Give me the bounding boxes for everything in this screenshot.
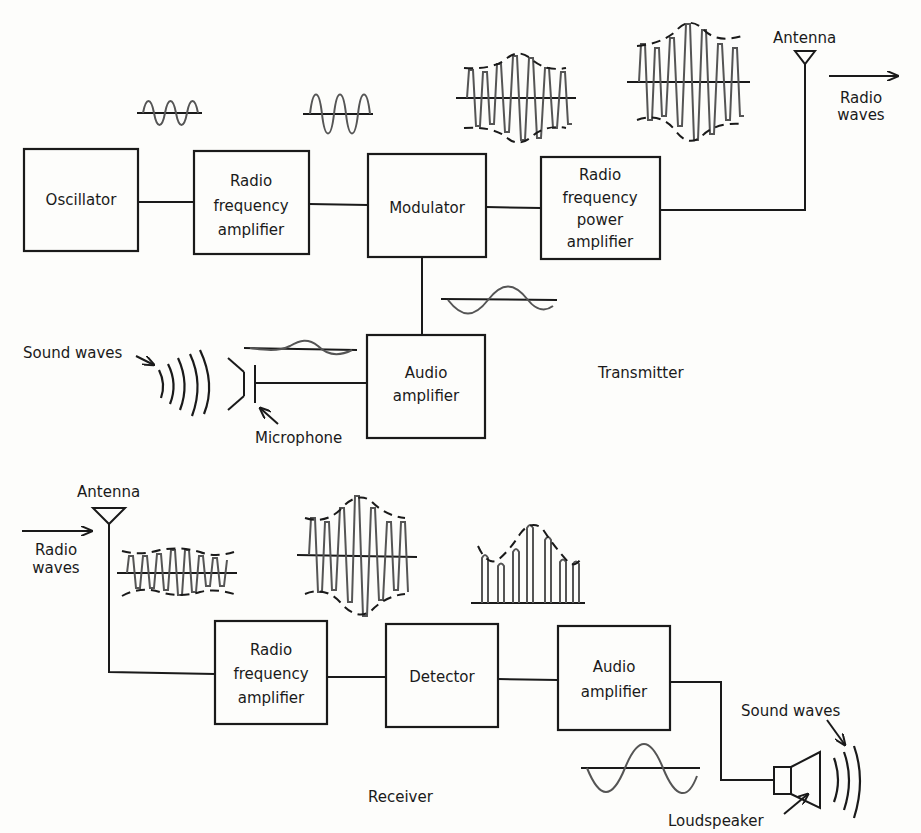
rx-sound-waves-arrow-icon — [827, 720, 845, 745]
rx-antenna-label: Antenna — [77, 483, 140, 501]
rx-rf-amplifier-label-line1: Radio — [250, 641, 292, 659]
tx-audio-amplifier-block: Audio amplifier — [367, 335, 485, 438]
loudspeaker-label: Loudspeaker — [668, 812, 764, 830]
tx-sound-waves-label: Sound waves — [23, 344, 123, 362]
microphone-pointer-arrow-icon — [260, 408, 278, 424]
rx-antenna-icon — [93, 508, 125, 524]
oscillator-block: Oscillator — [24, 149, 138, 251]
rf-power-amplifier-label-line4: amplifier — [567, 233, 634, 251]
transmitter-section: Oscillator Radio frequency amplifier Mod… — [23, 23, 898, 447]
rf-power-amplifier-label-line3: power — [577, 211, 624, 229]
radio-block-diagram: Oscillator Radio frequency amplifier Mod… — [0, 0, 921, 833]
receiver-section-label: Receiver — [368, 788, 434, 806]
rx-audio-amplifier-label-line1: Audio — [593, 658, 636, 676]
detector-label: Detector — [409, 668, 475, 686]
tx-antenna-icon — [795, 51, 815, 64]
loudspeaker-icon — [774, 752, 820, 808]
rf-power-amplifier-block: Radio frequency power amplifier — [541, 157, 660, 259]
rf-amplifier-output-waveform — [303, 95, 373, 134]
rx-rf-amplifier-block: Radio frequency amplifier — [215, 621, 327, 724]
transmitter-section-label: Transmitter — [597, 364, 684, 382]
tx-radio-waves-label-line2: waves — [837, 106, 885, 124]
tx-antenna-label: Antenna — [773, 29, 836, 47]
tx-radio-waves-label-line1: Radio — [840, 89, 882, 107]
detector-block: Detector — [386, 624, 498, 727]
amplified-modulated-waveform — [627, 23, 750, 141]
tx-rf-amplifier-label-line1: Radio — [230, 172, 272, 190]
received-weak-waveform — [117, 548, 237, 596]
tx-rf-amplifier-block: Radio frequency amplifier — [194, 151, 309, 254]
rx-radio-waves-label-line2: waves — [32, 559, 80, 577]
oscillator-label: Oscillator — [46, 191, 118, 209]
audio-output-waveform — [581, 744, 700, 793]
receiver-wires — [109, 524, 774, 780]
tx-sound-waves-arrow-icon — [136, 356, 154, 365]
tx-sound-waves-icon — [159, 350, 209, 416]
rx-rf-amplifier-label-line2: frequency — [233, 665, 308, 683]
rx-rf-amplifier-label-line3: amplifier — [238, 689, 305, 707]
rx-radio-waves-label-line1: Radio — [35, 541, 77, 559]
microphone-label: Microphone — [255, 429, 342, 447]
rf-power-amplifier-label-line1: Radio — [579, 166, 621, 184]
rx-audio-amplifier-label-line2: amplifier — [581, 683, 648, 701]
microphone-signal-waveform — [244, 341, 357, 354]
audio-signal-waveform — [441, 287, 557, 314]
oscillator-output-waveform — [137, 101, 202, 125]
rx-sound-waves-icon — [834, 746, 860, 818]
rx-amplified-waveform — [297, 496, 417, 616]
modulator-block: Modulator — [368, 154, 486, 257]
detected-rectified-waveform — [471, 525, 585, 603]
modulator-label: Modulator — [389, 199, 466, 217]
tx-rf-amplifier-label-line3: amplifier — [218, 221, 285, 239]
modulated-carrier-waveform — [456, 53, 576, 142]
tx-audio-amplifier-label-line1: Audio — [405, 364, 448, 382]
rx-audio-amplifier-block: Audio amplifier — [558, 626, 670, 730]
rf-power-amplifier-label-line2: frequency — [562, 189, 637, 207]
tx-audio-amplifier-label-line2: amplifier — [393, 387, 460, 405]
microphone-icon — [228, 358, 255, 410]
rx-sound-waves-label: Sound waves — [741, 702, 841, 720]
tx-rf-amplifier-label-line2: frequency — [213, 197, 288, 215]
receiver-section: Antenna Radio waves R — [22, 483, 860, 830]
